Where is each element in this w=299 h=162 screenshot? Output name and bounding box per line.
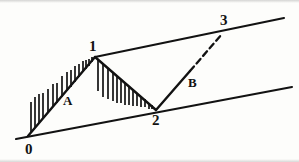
point-label-0: 0: [25, 142, 33, 157]
wave-2-to-3-dashed-part: [190, 34, 222, 71]
point-label-3: 3: [220, 13, 228, 28]
upper-trendline: [95, 18, 284, 57]
point-label-2: 2: [152, 113, 160, 128]
diagram-canvas: [0, 0, 299, 162]
elliott-wave-diagram: 0 1 2 3 A B: [0, 0, 299, 162]
wave-2-to-3-solid-part: [156, 71, 190, 110]
wave-0-to-1-advance: [28, 57, 95, 136]
wave-label-b: B: [188, 76, 197, 89]
wave-label-a: A: [63, 94, 72, 107]
point-label-1: 1: [89, 39, 97, 54]
